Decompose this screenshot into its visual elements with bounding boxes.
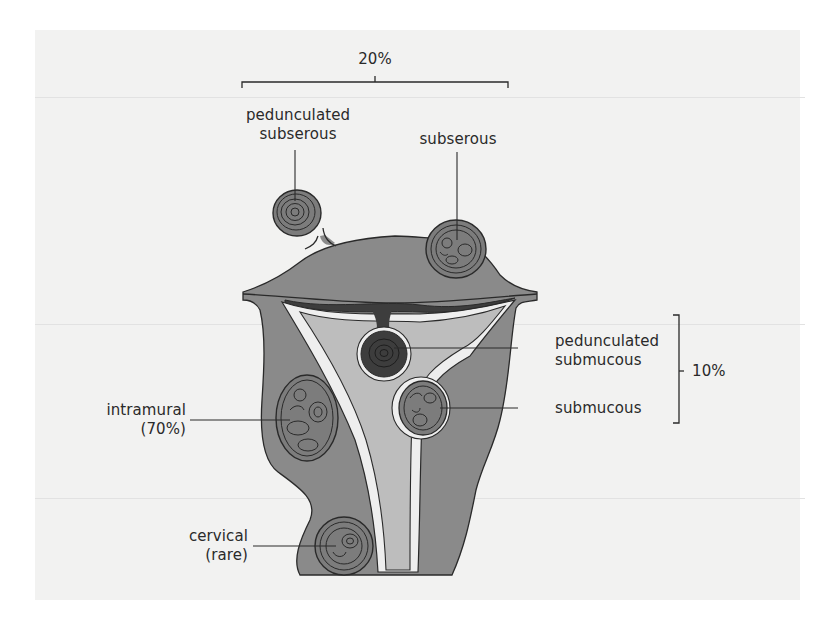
subserous-group-percentage: 20%: [345, 50, 405, 69]
label-line: pedunculated: [555, 332, 675, 351]
label-subserous: subserous: [408, 130, 508, 149]
label-line: intramural: [86, 401, 186, 420]
label-line: (70%): [86, 420, 186, 439]
percentage-text: 20%: [345, 50, 405, 69]
label-cervical: cervical (rare): [150, 527, 248, 565]
subserous-fibroid: [426, 220, 486, 278]
label-line: submucous: [555, 399, 665, 418]
label-pedunculated-submucous: pedunculated submucous: [555, 332, 675, 370]
label-pedunculated-subserous: pedunculated subserous: [238, 106, 358, 144]
label-line: pedunculated: [238, 106, 358, 125]
label-intramural: intramural (70%): [86, 401, 186, 439]
label-line: subserous: [408, 130, 508, 149]
label-line: (rare): [150, 546, 248, 565]
uterus-diagram: [0, 0, 840, 618]
intramural-fibroid: [276, 375, 338, 461]
pedunculated-subserous-fibroid: [273, 190, 336, 249]
label-line: subserous: [238, 125, 358, 144]
submucous-group-percentage: 10%: [692, 362, 752, 381]
percentage-text: 10%: [692, 362, 752, 381]
label-submucous: submucous: [555, 399, 665, 418]
label-line: cervical: [150, 527, 248, 546]
label-line: submucous: [555, 351, 675, 370]
subserous-bracket: [242, 76, 508, 88]
